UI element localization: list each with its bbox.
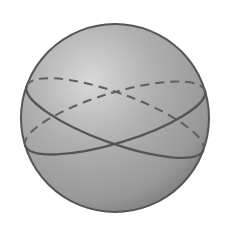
diagram-canvas bbox=[0, 0, 227, 226]
sphere-diagram bbox=[0, 0, 227, 226]
